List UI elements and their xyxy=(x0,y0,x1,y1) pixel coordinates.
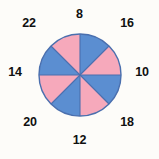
label-left: 14 xyxy=(2,66,28,79)
label-upper-right: 16 xyxy=(112,17,142,30)
label-bottom: 12 xyxy=(0,134,159,147)
pie-chart-graphic xyxy=(38,33,122,117)
label-lower-right: 18 xyxy=(112,116,142,129)
pie-chart-figure: 8 22 16 14 10 20 18 12 xyxy=(0,0,159,159)
pie-svg xyxy=(38,33,122,117)
label-upper-left: 22 xyxy=(16,17,42,30)
label-lower-left: 20 xyxy=(16,116,44,129)
label-right: 10 xyxy=(128,66,156,79)
